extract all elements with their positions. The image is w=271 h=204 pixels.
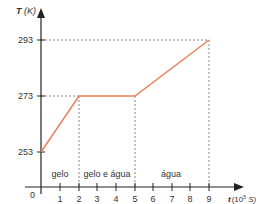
origin-label: 0: [30, 190, 35, 200]
y-tick-label: 293: [18, 35, 33, 45]
x-tick-label: 8: [187, 194, 192, 204]
axes: [25, 14, 236, 194]
x-tick-label: 4: [113, 194, 118, 204]
x-tick-label: 3: [94, 194, 99, 204]
x-axis-label: t(105 S): [228, 194, 257, 204]
x-tick-label: 5: [132, 194, 137, 204]
region-label-ice-water: gelo e água: [83, 169, 130, 179]
guide-lines: [41, 40, 209, 187]
y-tick-label: 253: [18, 147, 33, 157]
x-tick-label: 1: [57, 194, 62, 204]
y-tick-label: 273: [18, 91, 33, 101]
y-axis-arrow-icon: [37, 8, 45, 18]
chart: T (K) 293 273 253 0 1 2 3 4 5 6 7 8 9 t(…: [0, 0, 271, 204]
x-tick-label: 9: [206, 194, 211, 204]
y-axis-label: T (K): [16, 6, 36, 16]
x-tick-label: 6: [150, 194, 155, 204]
region-label-water: água: [161, 169, 181, 179]
region-label-ice: gelo: [51, 169, 68, 179]
x-tick-label: 2: [76, 194, 81, 204]
x-tick-label: 7: [169, 194, 174, 204]
x-axis-arrow-icon: [234, 183, 244, 191]
